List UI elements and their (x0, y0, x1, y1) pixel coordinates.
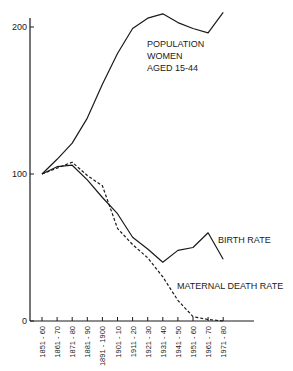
maternal-death-rate-line (42, 162, 223, 321)
population-line (42, 12, 223, 174)
birth-rate-line (42, 165, 223, 262)
series-label-birth-rate: BIRTH RATE (218, 235, 271, 245)
x-tick-label: 1911 - 20 (129, 326, 138, 357)
x-tick-label: 1871 - 80 (68, 326, 77, 358)
y-tick-label: 200 (12, 22, 27, 32)
x-tick-label: 1901 - 10 (114, 326, 123, 358)
x-tick-label: 1951 - 60 (189, 326, 198, 358)
x-tick-label: 1861 - 70 (53, 326, 62, 358)
y-tick-label: 100 (12, 169, 27, 179)
x-tick-label: 1881 - 90 (83, 326, 92, 358)
x-tick-label: 1931 - 40 (159, 326, 168, 358)
x-tick-label: 1891 - 1900 (98, 326, 107, 366)
x-tick-label: 1971 - 80 (219, 326, 228, 358)
series-label-population: POPULATION WOMEN AGED 15-44 (147, 39, 207, 73)
series-lines (42, 12, 223, 321)
x-axis-labels: 1851 - 601861 - 701871 - 801881 - 901891… (38, 326, 228, 366)
line-chart: 0100200 1851 - 601861 - 701871 - 801881 … (0, 0, 293, 371)
x-tick-label: 1851 - 60 (38, 326, 47, 358)
x-tick-label: 1961 - 70 (204, 326, 213, 358)
y-axis-labels: 0100200 (12, 22, 27, 326)
x-tick-label: 1941 - 50 (174, 326, 183, 358)
series-labels: POPULATION WOMEN AGED 15-44 BIRTH RATE M… (147, 39, 283, 291)
x-tick-label: 1921 - 30 (144, 326, 153, 358)
axes (30, 18, 254, 321)
series-label-maternal-death-rate: MATERNAL DEATH RATE (177, 281, 283, 291)
y-tick-label: 0 (22, 316, 27, 326)
